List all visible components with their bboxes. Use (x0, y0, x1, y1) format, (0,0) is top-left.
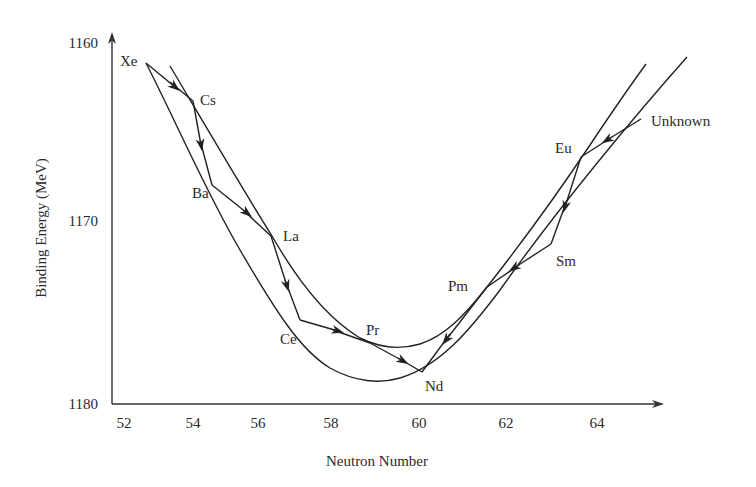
label-unknown: Unknown (651, 113, 711, 129)
seg-pr-nd (398, 358, 422, 372)
x-tick-64: 64 (590, 415, 606, 431)
x-tick-60: 60 (412, 415, 427, 431)
label-eu: Eu (555, 140, 572, 156)
seg-la-ce (285, 280, 300, 320)
y-tick-1180: 1180 (69, 396, 98, 412)
y-tick-1160: 1160 (69, 35, 98, 51)
upper-parabola-curve (170, 64, 646, 347)
seg-pm-nd (422, 334, 450, 372)
seg-ba-la (243, 210, 271, 236)
arrow-ce-pr (300, 320, 338, 331)
seg-unknown-eu (581, 137, 612, 157)
label-la: La (283, 228, 299, 244)
arrow-sm-pm (514, 244, 551, 268)
label-xe: Xe (120, 53, 138, 69)
y-tick-1170: 1170 (69, 213, 98, 229)
label-nd: Nd (425, 378, 444, 394)
x-tick-62: 62 (499, 415, 514, 431)
arrow-eu-sm (565, 157, 581, 207)
seg-eu-sm (551, 200, 567, 244)
label-pm: Pm (448, 278, 468, 294)
x-axis-title: Neutron Number (326, 453, 428, 469)
label-sm: Sm (556, 253, 576, 269)
x-tick-56: 56 (251, 415, 267, 431)
y-axis-title: Binding Energy (MeV) (33, 158, 50, 298)
label-ce: Ce (280, 331, 297, 347)
x-tick-52: 52 (117, 415, 132, 431)
label-cs: Cs (200, 92, 216, 108)
arrow-unknown-eu (607, 119, 641, 140)
seg-sm-pm (487, 265, 519, 287)
x-tick-58: 58 (324, 415, 339, 431)
label-pr: Pr (366, 322, 379, 338)
binding-energy-chart: 1160 1170 1180 52 54 56 58 60 62 64 Neut… (0, 0, 756, 487)
label-ba: Ba (192, 185, 209, 201)
x-tick-54: 54 (186, 415, 202, 431)
lower-parabola-curve (146, 57, 687, 381)
